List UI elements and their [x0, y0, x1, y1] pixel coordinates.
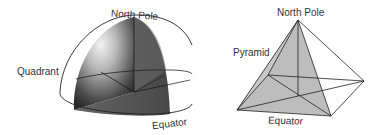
equator-label: Equator [151, 116, 188, 131]
pyramid-equator-label: Equator [268, 114, 304, 126]
pyramid-shaded-face [237, 20, 331, 116]
north-pole-label: North Pole [111, 8, 159, 22]
pyramid-label: Pyramid [233, 47, 270, 58]
pyramid-figure: North Pole Pyramid Equator [233, 7, 364, 127]
quadrant-label: Quadrant [17, 66, 59, 77]
pyramid-north-pole-label: North Pole [277, 7, 325, 18]
diagram-canvas: North Pole Quadrant Equator North Pole P… [0, 0, 377, 135]
hemisphere-figure: North Pole Quadrant Equator [17, 8, 192, 132]
